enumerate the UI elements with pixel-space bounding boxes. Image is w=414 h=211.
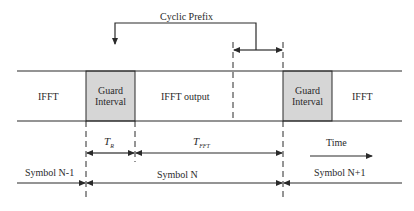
t-r-label: TR bbox=[104, 136, 114, 152]
time-label: Time bbox=[326, 137, 347, 148]
symbol-prev-label: Symbol N-1 bbox=[25, 167, 74, 178]
ofdm-cyclic-prefix-diagram bbox=[0, 0, 414, 211]
ifft-right-label: IFFT bbox=[352, 91, 373, 102]
cyclic-prefix-path bbox=[115, 23, 256, 50]
symbol-curr-label: Symbol N bbox=[157, 169, 198, 180]
t-r-sub: R bbox=[110, 143, 114, 149]
guard-interval-1-label: Guard Interval bbox=[86, 85, 135, 107]
ifft-left-label: IFFT bbox=[38, 91, 59, 102]
ifft-output-label: IFFT output bbox=[161, 91, 209, 102]
symbol-next-label: Symbol N+1 bbox=[314, 167, 365, 178]
t-fft-label: TFFT bbox=[193, 136, 210, 152]
guard-interval-2-line1: Guard bbox=[283, 85, 332, 96]
t-fft-sub: FFT bbox=[199, 143, 210, 149]
guard-interval-2-label: Guard Interval bbox=[283, 85, 332, 107]
guard-interval-2-line2: Interval bbox=[283, 96, 332, 107]
cyclic-prefix-label: Cyclic Prefix bbox=[160, 11, 213, 22]
guard-interval-1-line2: Interval bbox=[86, 96, 135, 107]
guard-interval-1-line1: Guard bbox=[86, 85, 135, 96]
